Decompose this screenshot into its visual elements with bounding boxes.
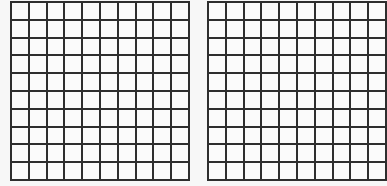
grid-cell: [316, 39, 334, 57]
grid-cell: [316, 3, 334, 21]
grid-cell: [83, 92, 101, 110]
grid-cell: [227, 92, 245, 110]
grid-cell: [351, 21, 369, 39]
grid-cell: [369, 74, 387, 92]
grid-cell: [119, 56, 137, 74]
grid-cell: [101, 74, 119, 92]
grid-cell: [369, 3, 387, 21]
grid-cell: [351, 3, 369, 21]
grid-cell: [227, 3, 245, 21]
grid-cell: [101, 21, 119, 39]
grid-cell: [209, 39, 227, 57]
grid-cell: [101, 39, 119, 57]
grid-cell: [334, 145, 352, 163]
grid-cell: [154, 92, 172, 110]
grid-cell: [245, 110, 263, 128]
grid-cell: [154, 128, 172, 146]
grid-cell: [83, 56, 101, 74]
grid-cell: [65, 145, 83, 163]
grid-cell: [101, 92, 119, 110]
grid-cell: [137, 92, 155, 110]
grid-cell: [137, 128, 155, 146]
grid-cell: [209, 92, 227, 110]
right-grid: [207, 1, 387, 181]
grid-cell: [30, 74, 48, 92]
grid-cell: [83, 39, 101, 57]
grid-cell: [351, 39, 369, 57]
grid-cell: [154, 145, 172, 163]
grid-cell: [227, 21, 245, 39]
grid-cell: [334, 110, 352, 128]
grid-cell: [101, 128, 119, 146]
grid-cell: [48, 145, 66, 163]
grid-cell: [48, 21, 66, 39]
grid-cell: [262, 74, 280, 92]
grid-cell: [30, 110, 48, 128]
grid-cell: [298, 110, 316, 128]
grid-cell: [12, 21, 30, 39]
grid-cell: [280, 39, 298, 57]
grid-cell: [262, 3, 280, 21]
grid-cell: [30, 128, 48, 146]
grid-cell: [209, 110, 227, 128]
grid-cell: [65, 92, 83, 110]
grid-cell: [334, 74, 352, 92]
grid-cell: [227, 74, 245, 92]
grid-cell: [245, 39, 263, 57]
grid-cell: [12, 145, 30, 163]
grid-cell: [245, 3, 263, 21]
grid-cell: [262, 145, 280, 163]
grid-cell: [65, 39, 83, 57]
grid-cell: [280, 110, 298, 128]
grid-cell: [334, 56, 352, 74]
grid-cell: [298, 163, 316, 181]
grid-cell: [119, 128, 137, 146]
grid-cell: [209, 56, 227, 74]
grid-cell: [316, 21, 334, 39]
grid-cell: [245, 163, 263, 181]
grid-cell: [30, 163, 48, 181]
grid-cell: [316, 128, 334, 146]
grid-cell: [334, 3, 352, 21]
grid-cell: [154, 39, 172, 57]
grid-cell: [48, 128, 66, 146]
grid-cell: [227, 128, 245, 146]
grid-cell: [351, 145, 369, 163]
grid-cell: [245, 21, 263, 39]
grid-cell: [280, 145, 298, 163]
grid-cell: [119, 3, 137, 21]
grid-cell: [119, 21, 137, 39]
grid-cell: [12, 74, 30, 92]
grid-cell: [209, 74, 227, 92]
grid-cell: [119, 145, 137, 163]
grid-cell: [369, 21, 387, 39]
grid-cell: [351, 56, 369, 74]
grid-cell: [119, 74, 137, 92]
grid-cell: [316, 110, 334, 128]
grid-cell: [119, 39, 137, 57]
grid-cell: [209, 3, 227, 21]
grid-cell: [83, 128, 101, 146]
grid-cell: [298, 145, 316, 163]
grid-cell: [298, 92, 316, 110]
grid-cell: [280, 56, 298, 74]
grid-cell: [12, 163, 30, 181]
grid-cell: [30, 21, 48, 39]
grid-cell: [65, 110, 83, 128]
grid-cell: [245, 145, 263, 163]
grid-cell: [83, 74, 101, 92]
grid-cell: [154, 3, 172, 21]
grid-cell: [48, 92, 66, 110]
grid-cell: [154, 21, 172, 39]
grid-cell: [30, 39, 48, 57]
grid-cell: [334, 39, 352, 57]
grid-cell: [369, 110, 387, 128]
grid-cell: [172, 74, 190, 92]
grid-cell: [262, 39, 280, 57]
grid-cell: [280, 74, 298, 92]
grid-cell: [298, 128, 316, 146]
grid-cell: [83, 3, 101, 21]
grid-cell: [209, 21, 227, 39]
grid-cell: [48, 74, 66, 92]
grid-cell: [316, 56, 334, 74]
